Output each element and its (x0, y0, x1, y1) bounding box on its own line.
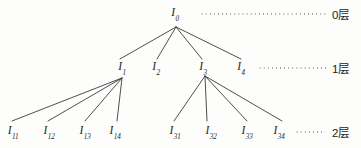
tree-node-i31: I31 (170, 124, 181, 139)
dotted-leader-level1 (258, 68, 328, 69)
tree-node-i12: I12 (44, 124, 55, 139)
tree-edge (120, 27, 176, 59)
tree-node-i14: I14 (110, 124, 121, 139)
node-subscript: 1 (123, 69, 127, 77)
tree-edge (157, 27, 176, 59)
tree-node-i1: I1 (118, 60, 125, 75)
tree-node-i11: I11 (8, 124, 18, 139)
node-subscript: 13 (84, 133, 91, 141)
tree-edge (117, 78, 122, 121)
node-subscript: 2 (157, 69, 161, 77)
tree-diagram: I00层I1I2I3I41层I11I12I13I14I31I32I33I342层 (0, 0, 361, 148)
node-subscript: 32 (210, 133, 217, 141)
tier-label-level1: 1层 (332, 60, 349, 76)
tree-edge (205, 76, 247, 121)
node-subscript: 11 (12, 133, 18, 141)
tier-label-level0: 0层 (332, 6, 349, 22)
tree-node-i2: I2 (152, 60, 159, 75)
tree-node-i32: I32 (206, 124, 217, 139)
node-subscript: 14 (114, 133, 121, 141)
node-subscript: 12 (48, 133, 55, 141)
dotted-leader-level2 (295, 132, 323, 133)
tree-node-i3: I3 (199, 60, 206, 75)
node-subscript: 4 (242, 69, 246, 77)
tree-edge (176, 27, 202, 59)
tree-edge (176, 27, 241, 59)
node-subscript: 34 (278, 133, 285, 141)
tree-edge (205, 76, 282, 121)
tree-node-i34: I34 (274, 124, 285, 139)
tree-node-i0: I0 (171, 6, 178, 21)
node-subscript: 31 (174, 133, 181, 141)
tier-label-level2: 2层 (332, 124, 349, 140)
tree-node-i33: I33 (242, 124, 253, 139)
dotted-leader-level0 (200, 14, 328, 15)
tree-edge (12, 78, 122, 121)
tree-edge (174, 76, 205, 121)
node-subscript: 33 (246, 133, 253, 141)
tree-node-i13: I13 (80, 124, 91, 139)
tree-node-i4: I4 (237, 60, 244, 75)
tree-edge (85, 78, 122, 121)
node-subscript: 0 (176, 15, 180, 23)
node-subscript: 3 (204, 69, 208, 77)
tree-edge (48, 78, 122, 121)
tree-edge (205, 76, 207, 121)
